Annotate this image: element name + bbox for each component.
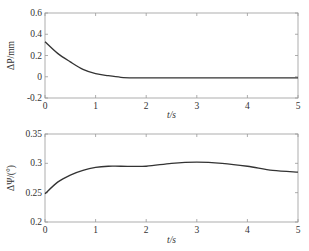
x-tick-label: 0 — [43, 101, 48, 111]
y-tick-label: 0.25 — [25, 188, 42, 198]
y-tick-label: 0.3 — [30, 158, 42, 168]
x-tick-label: 3 — [194, 225, 199, 235]
x-tick-label: 2 — [144, 225, 149, 235]
x-tick-label: 2 — [144, 101, 149, 111]
y-axis-label: ΔΨ/(°) — [6, 165, 17, 191]
y-tick-label: 0.35 — [25, 129, 42, 139]
y-tick-label: 0.2 — [30, 51, 42, 61]
x-axis-label: t/s — [167, 235, 176, 245]
plot-frame — [45, 134, 298, 222]
plot-bottom: 0123450.20.250.30.35t/sΔΨ/(°) — [6, 129, 301, 245]
y-tick-label: -0.2 — [27, 93, 42, 103]
x-tick-label: 3 — [194, 101, 199, 111]
x-tick-label: 0 — [43, 225, 48, 235]
x-axis-label: t/s — [167, 110, 176, 120]
data-curve — [45, 162, 298, 194]
plot-top: 012345-0.200.20.40.6t/sΔP/mm — [6, 8, 301, 120]
y-tick-label: 0.2 — [30, 217, 42, 227]
plot-frame — [45, 13, 298, 98]
data-curve — [45, 42, 298, 78]
y-tick-label: 0.6 — [30, 8, 42, 18]
y-axis-label: ΔP/mm — [6, 40, 16, 69]
y-tick-label: 0.4 — [30, 29, 42, 39]
x-tick-label: 5 — [296, 225, 301, 235]
x-tick-label: 5 — [296, 101, 301, 111]
x-tick-label: 1 — [93, 101, 98, 111]
figure: 012345-0.200.20.40.6t/sΔP/mm 0123450.20.… — [0, 0, 309, 251]
x-tick-label: 1 — [93, 225, 98, 235]
x-tick-label: 4 — [245, 225, 250, 235]
x-tick-label: 4 — [245, 101, 250, 111]
y-tick-label: 0 — [37, 72, 42, 82]
